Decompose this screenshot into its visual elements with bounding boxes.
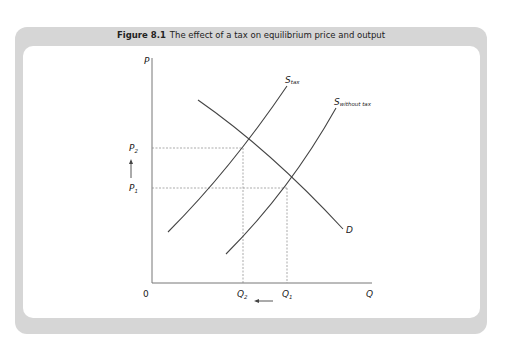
supply-tax-label: Stax <box>285 75 300 85</box>
origin-label: 0 <box>143 289 149 299</box>
demand-label: D <box>346 225 353 235</box>
supply-demand-chart: P Q 0 P2 P1 Q2 Q1 D Stax Swithout tax <box>0 0 509 347</box>
q2-label: Q2 <box>237 289 248 300</box>
price-up-arrow-icon <box>129 159 133 178</box>
p-axis-label: P <box>144 56 150 66</box>
guide-lines <box>152 148 287 283</box>
supply-without-tax-curve <box>226 108 336 254</box>
demand-curve <box>198 100 343 229</box>
supply-tax-curve <box>168 86 287 232</box>
p2-label: P2 <box>129 143 138 154</box>
q-axis-label: Q <box>366 289 373 299</box>
q1-label: Q1 <box>282 289 293 300</box>
supply-without-tax-label: Swithout tax <box>334 97 372 107</box>
quantity-left-arrow-icon <box>254 299 273 303</box>
p1-label: P1 <box>129 183 138 194</box>
